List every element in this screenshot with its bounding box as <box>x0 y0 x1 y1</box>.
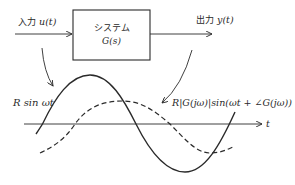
input-label: 入力 u(t) <box>18 17 56 27</box>
time-axis-label: t <box>266 119 270 129</box>
output-label-jp: 出力 <box>196 15 214 25</box>
input-label-var: u(t) <box>39 16 56 27</box>
input-label-jp: 入力 <box>18 17 36 27</box>
transfer-function: G(s) <box>102 35 121 48</box>
input-sine-curve <box>36 75 235 172</box>
system-block-label: システム G(s) <box>73 10 150 60</box>
input-pointer-arrow <box>42 48 53 86</box>
output-label-var: y(t) <box>217 14 234 25</box>
output-signal-label: R|G(jω)|sin(ωt + ∠G(jω)) <box>172 98 292 108</box>
input-signal-label: R sin ωt <box>13 98 54 108</box>
output-pointer-arrow <box>162 50 192 103</box>
output-sine-curve <box>40 101 233 153</box>
system-name: システム <box>94 22 130 35</box>
output-label: 出力 y(t) <box>196 15 234 25</box>
